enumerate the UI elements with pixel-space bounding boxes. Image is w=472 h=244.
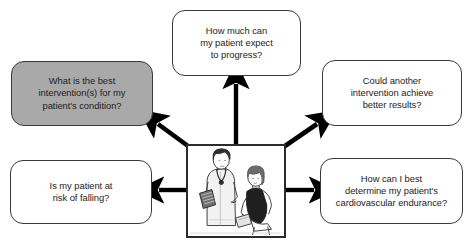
question-box-cardiovascular-endurance[interactable]: How can I best determine my patient's ca… (320, 158, 463, 224)
question-text: What is the best intervention(s) for my … (39, 75, 126, 112)
patient-examination-illustration (186, 144, 286, 238)
question-box-another-intervention[interactable]: Could another intervention achieve bette… (322, 60, 462, 126)
clinician-patient-drawing (188, 146, 283, 235)
question-text: Is my patient at risk of falling? (50, 180, 113, 204)
question-box-falling-risk[interactable]: Is my patient at risk of falling? (10, 160, 152, 224)
question-box-progress[interactable]: How much can my patient expect to progre… (172, 10, 301, 76)
arrow-up-left (158, 124, 188, 146)
question-text: How can I best determine my patient's ca… (336, 173, 447, 210)
diagram-canvas: How much can my patient expect to progre… (0, 0, 472, 244)
question-text: How much can my patient expect to progre… (200, 25, 273, 62)
question-box-best-intervention[interactable]: What is the best intervention(s) for my … (11, 61, 153, 126)
question-text: Could another intervention achieve bette… (351, 75, 433, 112)
arrow-up-right (285, 124, 317, 146)
